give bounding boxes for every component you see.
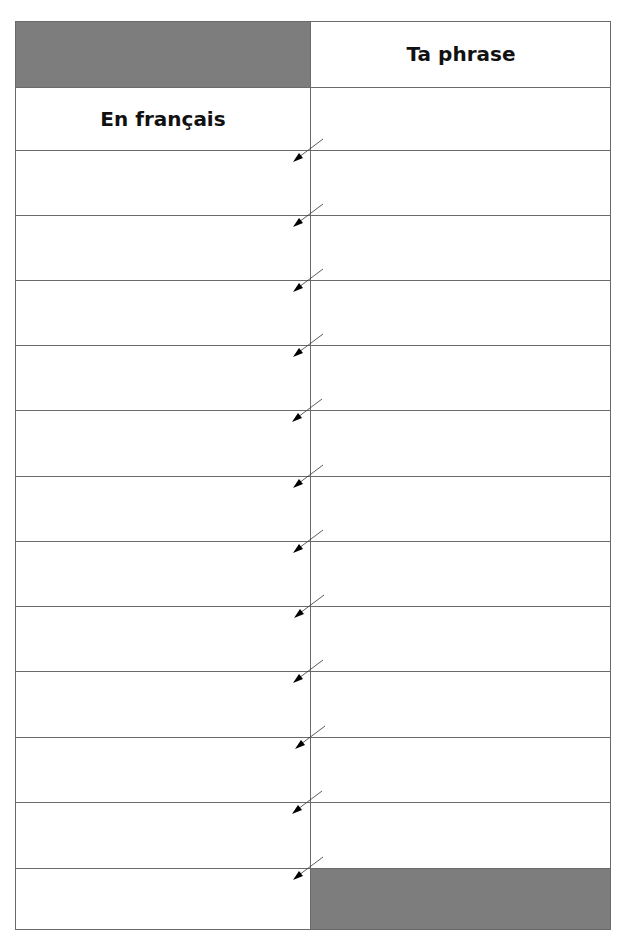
arrow-down-left-icon	[291, 659, 325, 685]
answer-cell-left-8[interactable]	[15, 606, 310, 671]
answer-cell-left-4[interactable]	[15, 345, 310, 410]
answer-cell-left-3[interactable]	[15, 280, 310, 345]
arrow-down-left-icon	[292, 594, 326, 620]
answer-cell-right-8[interactable]	[311, 541, 611, 606]
answer-cell-right-3[interactable]	[311, 215, 611, 280]
arrow-down-left-icon	[291, 464, 325, 490]
answer-cell-left-1[interactable]	[15, 150, 310, 215]
arrow-down-left-icon	[291, 138, 325, 164]
worksheet-table: Ta phrase En français	[15, 21, 611, 930]
arrow-down-left-icon	[291, 529, 325, 555]
answer-cell-left-2[interactable]	[15, 215, 310, 280]
answer-cell-left-12[interactable]	[15, 868, 310, 930]
answer-cell-left-5[interactable]	[15, 410, 310, 476]
answer-cell-right-2[interactable]	[311, 150, 611, 215]
arrow-down-left-icon	[290, 398, 324, 424]
answer-cell-right-5[interactable]	[311, 345, 611, 410]
answer-cell-left-11[interactable]	[15, 802, 310, 868]
arrow-down-left-icon	[291, 856, 325, 882]
answer-cell-right-12[interactable]	[311, 802, 611, 868]
answer-cell-right-9[interactable]	[311, 606, 611, 671]
answer-cell-right-11[interactable]	[311, 737, 611, 802]
arrow-down-left-icon	[290, 790, 324, 816]
arrow-down-left-icon	[293, 725, 327, 751]
answer-cell-left-7[interactable]	[15, 541, 310, 606]
answer-cell-right-6[interactable]	[311, 410, 611, 476]
answer-cell-right-10[interactable]	[311, 671, 611, 737]
answer-cell-left-10[interactable]	[15, 737, 310, 802]
arrow-down-left-icon	[291, 203, 325, 229]
answer-cell-left-9[interactable]	[15, 671, 310, 737]
arrow-down-left-icon	[291, 333, 325, 359]
answer-cell-left-6[interactable]	[15, 476, 310, 541]
answer-cell-right-1[interactable]	[311, 87, 611, 150]
arrow-down-left-icon	[291, 268, 325, 294]
answer-cell-right-7[interactable]	[311, 476, 611, 541]
answer-cell-right-4[interactable]	[311, 280, 611, 345]
